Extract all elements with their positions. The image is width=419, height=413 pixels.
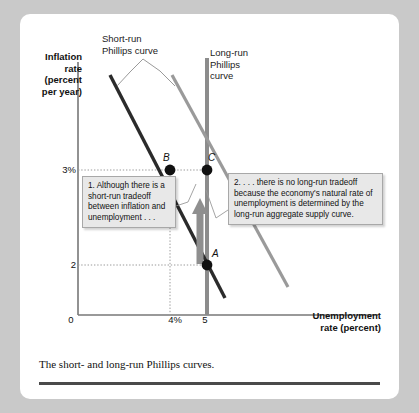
short-run-curve-label: Short-run Phillips curve — [102, 33, 158, 56]
figure-caption: The short- and long-run Phillips curves. — [39, 358, 214, 370]
y-axis-label: Inflation rate (percent per year) — [26, 51, 82, 97]
point-a-label: A — [212, 248, 219, 259]
x-tick-label-0: 0 — [64, 314, 78, 325]
point-a-marker — [202, 260, 213, 271]
callout-no-long-run-tradeoff: 2. . . . there is no long-run tradeoff b… — [228, 173, 383, 225]
long-run-curve-label: Long-run Phillips curve — [210, 47, 248, 82]
callout-short-run-tradeoff: 1. Although there is a short-run tradeof… — [82, 176, 176, 228]
x-tick-label-4-percent: 4% — [162, 314, 188, 325]
point-b-label: B — [163, 152, 170, 163]
x-tick-label-5: 5 — [198, 314, 212, 325]
short-run-leader-line-left — [117, 59, 143, 86]
figure-card: Inflation rate (percent per year) Unempl… — [20, 14, 399, 399]
callout-2-leader-line — [206, 190, 228, 218]
short-run-leader-line-right — [143, 59, 175, 86]
point-c-marker — [202, 165, 213, 176]
point-c-label: C — [208, 152, 215, 163]
y-tick-label-3-percent: 3% — [46, 164, 76, 175]
x-axis-label: Unemployment rate (percent) — [263, 310, 381, 333]
y-tick-label-2: 2 — [46, 259, 76, 270]
caption-rule — [39, 382, 380, 385]
point-b-marker — [165, 165, 176, 176]
